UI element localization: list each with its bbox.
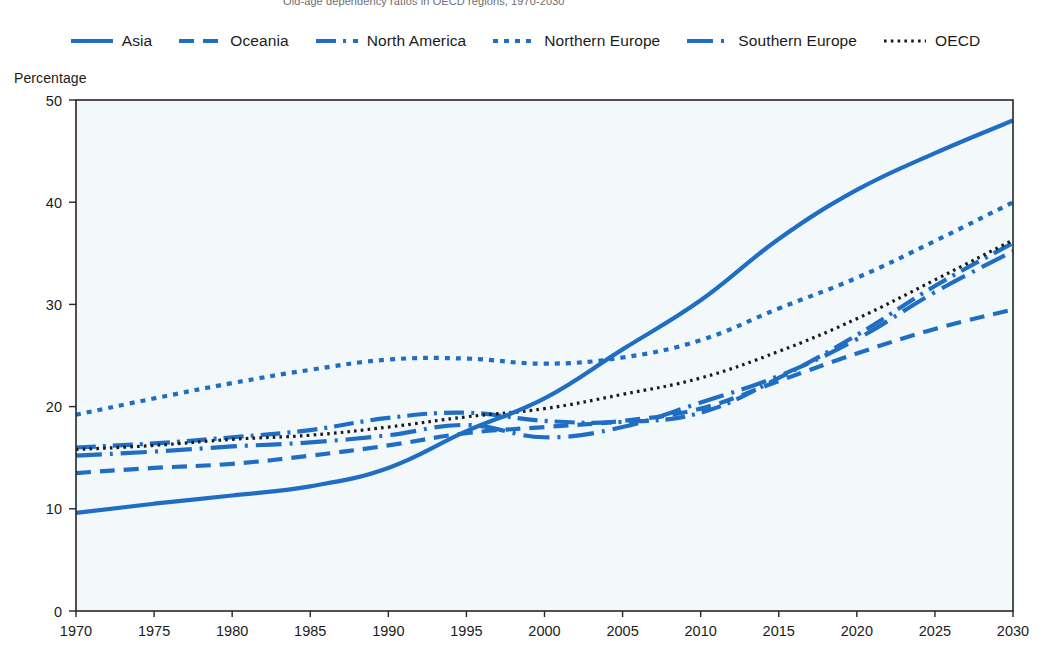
y-tick-label: 0 bbox=[54, 604, 62, 620]
x-tick-label: 2005 bbox=[606, 623, 638, 639]
x-tick-label: 2025 bbox=[919, 623, 951, 639]
x-tick-label: 2015 bbox=[763, 623, 795, 639]
x-tick-label: 2010 bbox=[685, 623, 717, 639]
x-tick-label: 1995 bbox=[450, 623, 482, 639]
y-tick-label: 50 bbox=[46, 93, 62, 109]
y-tick-label: 20 bbox=[46, 399, 62, 415]
x-tick-label: 1975 bbox=[138, 623, 170, 639]
x-tick-label: 1985 bbox=[294, 623, 326, 639]
x-tick-label: 1990 bbox=[372, 623, 404, 639]
x-axis-tickmarks bbox=[76, 611, 1013, 617]
plot-background bbox=[76, 100, 1013, 611]
y-axis-tick-labels: 01020304050 bbox=[46, 93, 62, 620]
chart-plot-area: 01020304050 1970197519801985199019952000… bbox=[0, 0, 1050, 659]
x-axis-tick-labels: 1970197519801985199019952000200520102015… bbox=[60, 623, 1029, 639]
y-tick-label: 10 bbox=[46, 501, 62, 517]
x-tick-label: 1980 bbox=[216, 623, 248, 639]
x-tick-label: 1970 bbox=[60, 623, 92, 639]
x-tick-label: 2030 bbox=[997, 623, 1029, 639]
y-tick-label: 40 bbox=[46, 195, 62, 211]
y-tick-label: 30 bbox=[46, 297, 62, 313]
y-axis-tickmarks bbox=[69, 100, 76, 611]
chart-figure: Old-age dependency ratios in OECD region… bbox=[0, 0, 1050, 659]
x-tick-label: 2020 bbox=[841, 623, 873, 639]
x-tick-label: 2000 bbox=[528, 623, 560, 639]
